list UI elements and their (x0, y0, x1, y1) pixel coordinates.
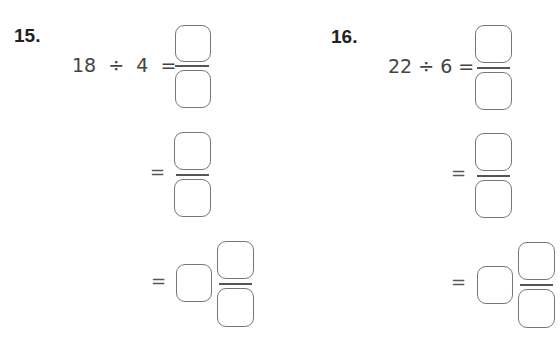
fraction-bar (477, 175, 510, 177)
numerator-box[interactable] (174, 132, 211, 170)
denominator-box[interactable] (174, 179, 211, 217)
fraction-bar (175, 65, 209, 67)
denominator-box[interactable] (475, 180, 512, 218)
numerator-box[interactable] (475, 25, 512, 63)
denominator-box[interactable] (518, 289, 555, 328)
whole-number-box[interactable] (176, 264, 212, 302)
equals-sign: = (451, 162, 466, 183)
numerator-box[interactable] (518, 242, 555, 280)
denominator-box[interactable] (475, 72, 512, 110)
equals-sign: = (150, 161, 165, 182)
division-expression: 18 ÷ 4 = (72, 54, 176, 76)
denominator-box[interactable] (217, 288, 254, 327)
problem-number: 15. (14, 25, 40, 47)
numerator-box[interactable] (217, 241, 254, 279)
denominator-box[interactable] (175, 70, 211, 108)
numerator-box[interactable] (175, 25, 211, 62)
division-expression: 22 ÷ 6 = (388, 55, 474, 77)
fraction-bar (176, 174, 209, 176)
numerator-box[interactable] (475, 133, 512, 171)
fraction-bar (219, 283, 252, 285)
whole-number-box[interactable] (477, 266, 513, 304)
equals-sign: = (451, 271, 466, 292)
equals-sign: = (151, 270, 166, 291)
fraction-bar (477, 67, 510, 69)
fraction-bar (520, 284, 553, 286)
problem-number: 16. (331, 26, 357, 48)
